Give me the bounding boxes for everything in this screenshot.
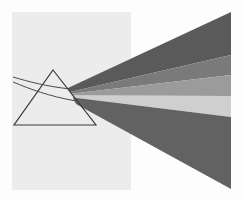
prism-dispersion-figure: [0, 0, 242, 200]
prism-illustration: [0, 0, 242, 200]
